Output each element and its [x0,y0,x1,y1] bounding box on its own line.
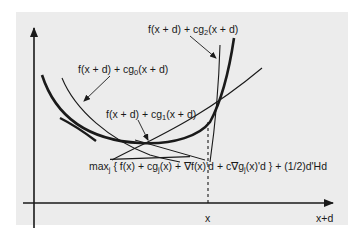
model-label-part2: { f(x) + cg [111,160,159,172]
x-axis-label: x+d [316,213,333,224]
g0-label-suffix: (x + d) [138,63,168,75]
lower-crossing-line [110,157,190,160]
g2-label-prefix: f(x + d) + cg [148,23,204,35]
g2-pointer [190,36,216,58]
x-tick-label: x [205,213,210,224]
model-label-part3: (x) + ∇f(x)'d + c∇g [160,160,244,172]
diagram-svg [0,0,359,248]
max-function-curve [42,38,234,143]
g1-pointer [138,120,148,140]
g0-label-prefix: f(x + d) + cg [78,63,134,75]
g1-label: f(x + d) + cg1(x + d) [106,109,196,122]
figure-canvas: f(x + d) + cg2(x + d) f(x + d) + cg0(x +… [0,0,359,248]
model-label-max: max [89,160,109,172]
lower-left-thick-segment [60,118,96,141]
g0-pointer [84,76,110,101]
g0-label: f(x + d) + cg0(x + d) [78,64,168,77]
g2-label: f(x + d) + cg2(x + d) [148,24,238,37]
model-label-part4: (x)'d } + (1/2)d'Hd [246,160,327,172]
model-label: maxj { f(x) + cgj(x) + ∇f(x)'d + c∇gj(x)… [89,161,327,174]
g1-label-suffix: (x + d) [166,108,196,120]
g2-label-suffix: (x + d) [208,23,238,35]
g1-label-prefix: f(x + d) + cg [106,108,162,120]
